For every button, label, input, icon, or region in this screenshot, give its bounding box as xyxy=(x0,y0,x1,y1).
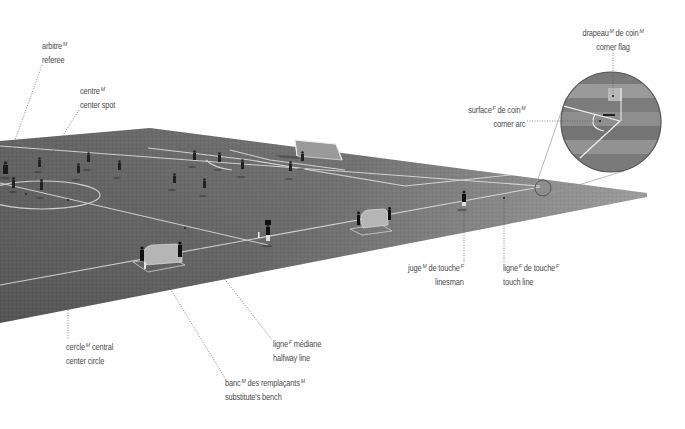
gender-marker: M xyxy=(610,28,614,34)
label-corner-arc-en: corner arc xyxy=(468,118,525,131)
gender-marker: M xyxy=(101,86,105,92)
label-substitutes-bench-en: substitute's bench xyxy=(225,391,305,404)
label-substitutes-bench-fr: banc xyxy=(225,378,241,388)
corner-marker xyxy=(258,232,260,238)
gender-marker: F xyxy=(556,263,559,269)
label-suffix: médiane xyxy=(292,339,321,349)
label-linesman-fr: juge xyxy=(408,263,421,273)
label-suffix: de coin xyxy=(495,105,520,115)
label-suffix: de touche xyxy=(522,263,555,273)
gender-marker: M xyxy=(86,342,90,348)
label-halfway-line: ligneF médiane halfway line xyxy=(273,338,321,364)
label-corner-flag-en: corner flag xyxy=(569,41,657,54)
gender-marker: F xyxy=(289,339,292,345)
gender-marker: M xyxy=(241,378,245,384)
gender-marker: M xyxy=(521,105,525,111)
label-center-circle-en: center circle xyxy=(66,355,113,368)
label-suffix: de coin xyxy=(614,28,639,38)
label-linesman: jugeM de toucheF linesman xyxy=(408,262,464,288)
gender-marker: M xyxy=(423,263,427,269)
corner-zoom-inset xyxy=(560,70,670,174)
label-touch-line-fr: ligne xyxy=(503,263,518,273)
label-corner-flag: drapeauM de coinM corner flag xyxy=(569,27,657,53)
gender-marker: M xyxy=(63,41,67,47)
label-touch-line-en: touch line xyxy=(503,276,559,289)
label-halfway-line-en: halfway line xyxy=(273,352,321,365)
label-center-circle-fr: cercle xyxy=(66,342,85,352)
gender-marker: F xyxy=(461,263,464,269)
gender-marker: F xyxy=(492,105,495,111)
label-referee: arbitreM referee xyxy=(42,40,67,66)
label-corner-arc-fr: surface xyxy=(468,105,491,115)
label-referee-fr: arbitre xyxy=(42,41,62,51)
label-substitutes-bench: bancM des remplaçantsM substitute's benc… xyxy=(225,377,305,403)
label-referee-en: referee xyxy=(42,54,67,67)
label-suffix: central xyxy=(90,342,113,352)
gender-marker: F xyxy=(519,263,522,269)
label-corner-arc: surfaceF de coinM corner arc xyxy=(468,104,525,130)
label-touch-line: ligneF de toucheF touch line xyxy=(503,262,559,288)
label-suffix: de touche xyxy=(427,263,460,273)
label-center-spot-fr: centre xyxy=(80,86,100,96)
label-center-spot-en: center spot xyxy=(80,99,115,112)
gender-marker: M xyxy=(639,28,643,34)
label-linesman-en: linesman xyxy=(408,276,464,289)
gender-marker: M xyxy=(301,378,305,384)
label-center-spot: centreM center spot xyxy=(80,85,115,111)
label-halfway-line-fr: ligne xyxy=(273,339,288,349)
label-corner-flag-fr: drapeau xyxy=(582,28,608,38)
label-center-circle: cercleM central center circle xyxy=(66,341,113,367)
label-suffix: des remplaçants xyxy=(246,378,300,388)
